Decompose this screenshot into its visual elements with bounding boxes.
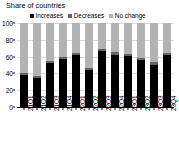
y-axis-tick-mark	[13, 107, 15, 108]
y-axis-tick-label: 40	[6, 70, 13, 77]
y-axis-tick-label: 60	[6, 53, 13, 60]
bar-segment-no-change[interactable]	[163, 23, 171, 53]
x-axis-tick: 21Q1	[17, 108, 30, 142]
x-axis-tick-mark	[75, 108, 76, 110]
y-axis-tick-label: 80	[6, 36, 13, 43]
y-axis-tick-label: 20	[6, 87, 13, 94]
x-axis-tick: 22Q2	[82, 108, 95, 142]
legend-entry: No change	[109, 12, 145, 19]
bar-segment-no-change[interactable]	[33, 23, 41, 76]
x-axis-tick-mark	[23, 108, 24, 110]
bar-segment-no-change[interactable]	[59, 23, 67, 57]
x-axis-tick-label: 23Q4	[171, 95, 178, 111]
x-axis-tick-mark	[36, 108, 37, 110]
x-axis-tick: 21Q2	[30, 108, 43, 142]
x-axis-tick: 23Q2	[135, 108, 148, 142]
x-axis-tick: 22Q4	[109, 108, 122, 142]
bar-segment-no-change[interactable]	[85, 23, 93, 68]
x-axis-tick-mark	[102, 108, 103, 110]
square-swatch-icon	[109, 14, 113, 18]
square-swatch-icon	[68, 14, 72, 18]
chart-title: Share of countries	[6, 1, 65, 10]
legend-label: No change	[115, 12, 146, 19]
bar-segment-no-change[interactable]	[72, 23, 80, 53]
bar-segment-no-change[interactable]	[124, 23, 132, 54]
x-axis-tick-mark	[115, 108, 116, 110]
x-axis-tick-mark	[141, 108, 142, 110]
y-axis-tick-label: 100	[2, 20, 13, 27]
x-axis-tick: 23Q1	[122, 108, 135, 142]
legend-label: Decreases	[74, 12, 105, 19]
x-axis-tick-mark	[49, 108, 50, 110]
x-axis-tick: 22Q3	[95, 108, 108, 142]
x-axis-tick-mark	[154, 108, 155, 110]
y-axis-tick-mark	[13, 73, 15, 74]
bar-segment-no-change[interactable]	[98, 23, 106, 49]
x-axis: 21Q121Q221Q321Q422Q122Q222Q322Q423Q123Q2…	[17, 108, 174, 142]
square-swatch-icon	[30, 14, 34, 18]
bar-segment-no-change[interactable]	[150, 23, 158, 62]
bar-segment-no-change[interactable]	[137, 23, 145, 58]
legend-entry: Decreases	[68, 12, 104, 19]
x-axis-tick: 21Q3	[43, 108, 56, 142]
stacked-bar-chart: Share of countries IncreasesDecreasesNo …	[0, 0, 179, 142]
y-axis-tick-mark	[13, 90, 15, 91]
x-axis-tick: 22Q1	[69, 108, 82, 142]
bar-segment-no-change[interactable]	[111, 23, 119, 52]
x-axis-tick-mark	[88, 108, 89, 110]
x-axis-tick-mark	[167, 108, 168, 110]
x-axis-tick: 23Q3	[148, 108, 161, 142]
x-axis-tick: 21Q4	[56, 108, 69, 142]
y-axis-tick-mark	[13, 23, 15, 24]
bar-segment-no-change[interactable]	[20, 23, 28, 73]
chart-legend: IncreasesDecreasesNo change	[30, 11, 146, 20]
x-axis-tick-mark	[62, 108, 63, 110]
x-axis-tick-mark	[128, 108, 129, 110]
y-axis-tick-mark	[13, 56, 15, 57]
x-axis-tick: 23Q4	[161, 108, 174, 142]
legend-entry: Increases	[30, 12, 63, 19]
y-axis-tick-mark	[13, 39, 15, 40]
bar-segment-no-change[interactable]	[46, 23, 54, 61]
y-axis: 020406080100	[0, 23, 15, 107]
legend-label: Increases	[36, 12, 64, 19]
